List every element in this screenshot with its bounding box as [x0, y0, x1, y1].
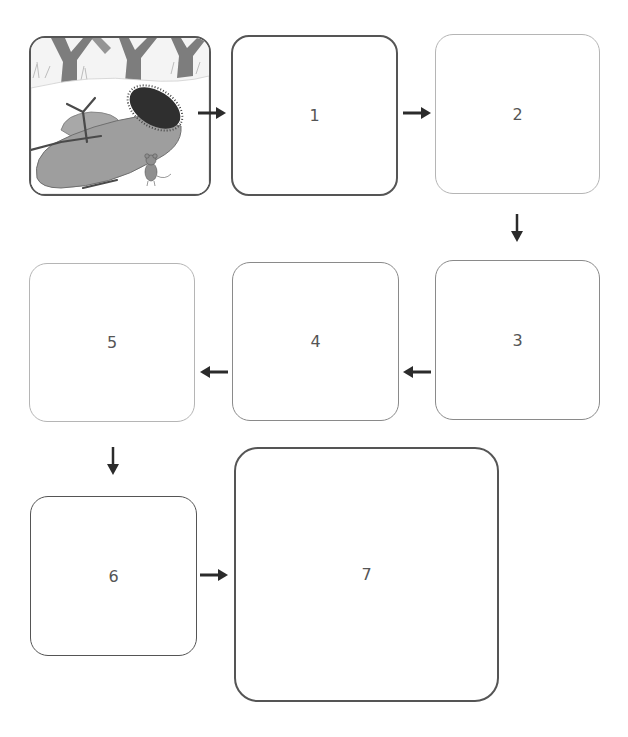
story-illustration [29, 36, 211, 196]
arrow-right-icon [402, 106, 432, 120]
sequence-box-7[interactable]: 7 [234, 447, 499, 702]
arrow-right-icon [197, 106, 227, 120]
box-number: 5 [107, 333, 117, 352]
sequence-box-5[interactable]: 5 [29, 263, 195, 422]
arrow-down-icon [106, 446, 120, 476]
sequence-box-2[interactable]: 2 [435, 34, 600, 194]
arrow-left-icon [199, 365, 229, 379]
arrow-left-icon [402, 365, 432, 379]
sequence-box-1[interactable]: 1 [231, 35, 398, 196]
arrow-down-icon [510, 213, 524, 243]
sequence-box-6[interactable]: 6 [30, 496, 197, 656]
box-number: 1 [309, 106, 319, 125]
box-number: 6 [108, 567, 118, 586]
sequence-box-3[interactable]: 3 [435, 260, 600, 420]
box-number: 4 [310, 332, 320, 351]
arrow-right-icon [199, 568, 229, 582]
sequence-box-4[interactable]: 4 [232, 262, 399, 421]
box-number: 2 [512, 105, 522, 124]
box-number: 7 [361, 565, 371, 584]
box-number: 3 [512, 331, 522, 350]
mitten-mouse-illustration [31, 38, 209, 194]
